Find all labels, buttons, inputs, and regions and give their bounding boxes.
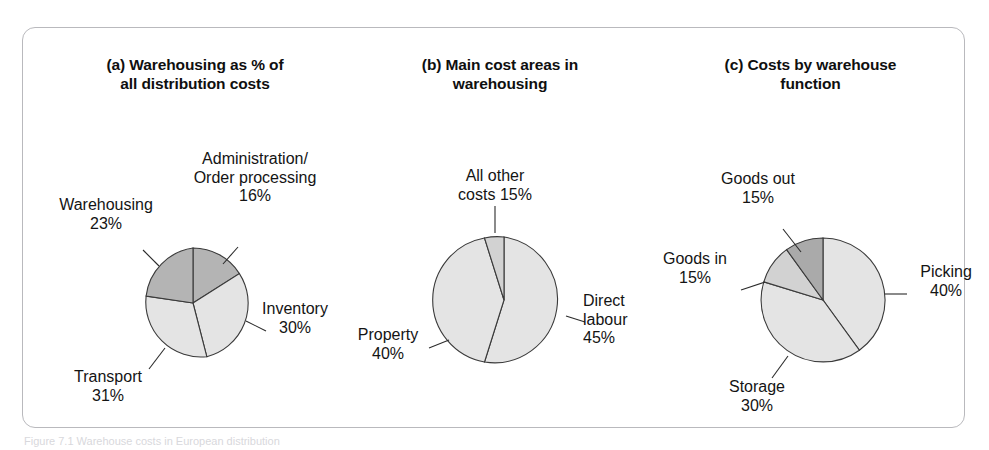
leader-administration [223,247,238,264]
leader-transport [149,348,165,369]
label-all-other-costs: All other costs 15% [425,167,565,204]
label-administration-order-processing: Administration/ Order processing 16% [165,150,345,206]
label-storage: Storage 30% [707,378,807,415]
figure-frame: (a) Warehousing as % of all distribution… [22,27,965,428]
label-inventory: Inventory 30% [245,300,345,337]
label-goods-in: Goods in 15% [645,250,745,287]
label-goods-out: Goods out 15% [693,170,823,207]
label-picking: Picking 40% [903,263,989,300]
chart-panel-b: (b) Main cost areas in warehousing All o… [345,28,655,427]
leader-storage [772,356,788,378]
label-transport: Transport 31% [53,368,163,405]
pie-chart-b [345,28,655,429]
label-warehousing: Warehousing 23% [47,196,165,233]
label-direct-labour: Direct labour 45% [583,292,663,348]
leader-warehousing [143,250,159,266]
chart-panel-c: (c) Costs by warehouse function Goods ou… [655,28,966,427]
leader-property [429,340,449,348]
slice-warehousing [146,248,193,303]
chart-panel-a: (a) Warehousing as % of all distribution… [45,28,345,427]
label-property: Property 40% [345,326,431,363]
pie-chart-c [655,28,966,429]
figure-caption: Figure 7.1 Warehouse costs in European d… [24,435,444,449]
